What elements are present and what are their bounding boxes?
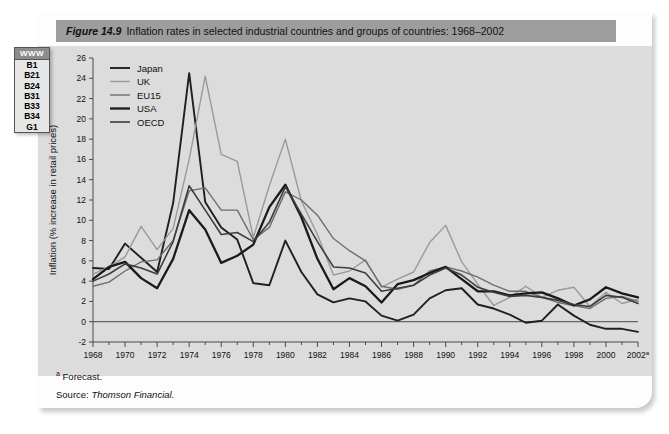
x-axis-tick-label: 1970 bbox=[116, 350, 135, 360]
y-axis-tick-label: 20 bbox=[77, 114, 87, 124]
plot-background bbox=[38, 46, 652, 376]
figure-title-bar: Figure 14.9 Inflation rates in selected … bbox=[56, 20, 616, 42]
legend-label-uk: UK bbox=[137, 76, 151, 87]
footnote-forecast-text: Forecast. bbox=[63, 371, 103, 382]
www-margin-tab: WWW B1B21B24B31B33B34G1 bbox=[14, 47, 50, 133]
y-axis-title: Inflation (% increase in retail prices) bbox=[47, 125, 58, 275]
www-tab-item[interactable]: B33 bbox=[15, 101, 49, 111]
y-axis-tick-label: -2 bbox=[78, 337, 86, 347]
y-axis-title-text: Inflation (% increase in retail prices) bbox=[47, 125, 58, 275]
x-axis-tick-label: 1980 bbox=[276, 350, 295, 360]
y-axis-tick-label: 24 bbox=[77, 73, 87, 83]
www-tab-item[interactable]: B31 bbox=[15, 91, 49, 101]
legend-label-eu15: EU15 bbox=[137, 90, 161, 101]
legend-label-japan: Japan bbox=[137, 63, 163, 74]
x-axis-tick-label: 1988 bbox=[404, 350, 423, 360]
legend-label-usa: USA bbox=[137, 103, 157, 114]
y-axis-tick-label: 14 bbox=[77, 175, 87, 185]
y-axis-tick-label: 22 bbox=[77, 94, 87, 104]
x-axis-tick-label: 1990 bbox=[436, 350, 455, 360]
footnote-source: Source: Thomson Financial. bbox=[56, 389, 616, 400]
y-axis-tick-label: 0 bbox=[81, 317, 86, 327]
y-axis-tick-label: 6 bbox=[81, 256, 86, 266]
www-tab-item[interactable]: G1 bbox=[15, 122, 49, 132]
chart-plot: -202468101214161820222426196819701972197… bbox=[38, 46, 652, 376]
figure-title-text: Inflation rates in selected industrial c… bbox=[126, 25, 504, 37]
x-axis-tick-label: 1994 bbox=[500, 350, 519, 360]
y-axis-tick-label: 26 bbox=[77, 53, 87, 63]
x-axis-tick-label: 1978 bbox=[244, 350, 263, 360]
figure-number: Figure 14.9 bbox=[66, 25, 121, 37]
footnote-marker: a bbox=[56, 370, 60, 377]
inflation-line-chart: -202468101214161820222426196819701972197… bbox=[38, 46, 652, 376]
x-axis-tick-label: 1984 bbox=[340, 350, 359, 360]
legend-label-oecd: OECD bbox=[137, 117, 165, 128]
source-label: Source: bbox=[56, 389, 89, 400]
www-tab-header: WWW bbox=[15, 48, 49, 60]
www-tab-item[interactable]: B34 bbox=[15, 111, 49, 121]
y-axis-tick-label: 16 bbox=[77, 154, 87, 164]
x-axis-tick-label: 1982 bbox=[308, 350, 327, 360]
www-tab-item[interactable]: B21 bbox=[15, 70, 49, 80]
plot-background-rect bbox=[38, 46, 652, 376]
figure-panel: Figure 14.9 Inflation rates in selected … bbox=[38, 12, 652, 408]
x-axis-tick-label: 1976 bbox=[212, 350, 231, 360]
figure-footnotes: a Forecast. Source: Thomson Financial. bbox=[56, 370, 616, 407]
footnote-forecast: a Forecast. bbox=[56, 370, 616, 382]
y-axis-tick-label: 2 bbox=[81, 296, 86, 306]
www-tab-item[interactable]: B1 bbox=[15, 60, 49, 70]
source-name: Thomson Financial. bbox=[91, 389, 174, 400]
y-axis-tick-label: 4 bbox=[81, 276, 86, 286]
x-axis-tick-label: 1974 bbox=[180, 350, 199, 360]
x-axis-tick-label: 1972 bbox=[148, 350, 167, 360]
x-axis-tick-label: 1986 bbox=[372, 350, 391, 360]
www-tab-items: B1B21B24B31B33B34G1 bbox=[15, 60, 49, 132]
y-axis-tick-label: 12 bbox=[77, 195, 87, 205]
x-axis-tick-label: 1996 bbox=[532, 350, 551, 360]
www-tab-item[interactable]: B24 bbox=[15, 81, 49, 91]
y-axis-tick-label: 10 bbox=[77, 215, 87, 225]
y-axis-tick-label: 18 bbox=[77, 134, 87, 144]
x-axis-tick-label: 1992 bbox=[468, 350, 487, 360]
y-axis-tick-label: 8 bbox=[81, 236, 86, 246]
x-axis-tick-label: 1998 bbox=[564, 350, 583, 360]
x-axis-tick-label: 2000 bbox=[596, 350, 615, 360]
x-axis-tick-label: 1968 bbox=[84, 350, 103, 360]
